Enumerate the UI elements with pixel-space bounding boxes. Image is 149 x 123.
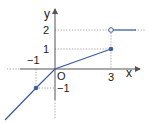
- origin-label: O: [57, 70, 66, 82]
- y-tick-neg1: −1: [57, 82, 70, 94]
- point-open: [109, 28, 114, 33]
- x-tick-3: 3: [108, 71, 114, 83]
- y-tick-1: 1: [43, 43, 49, 55]
- y-tick-2: 2: [43, 24, 49, 36]
- point-filled: [34, 86, 39, 91]
- function-curve: [5, 30, 136, 120]
- x-tick-neg1: −1: [27, 54, 40, 66]
- guide-lines: [7, 30, 145, 118]
- x-axis-label: x: [126, 66, 132, 80]
- point-filled: [109, 47, 114, 52]
- function-graph: y x O 2 1 −1 −1 3: [0, 0, 149, 123]
- y-axis-label: y: [44, 7, 50, 21]
